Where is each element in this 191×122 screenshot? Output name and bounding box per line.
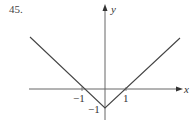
x-axis-label: x <box>183 83 189 95</box>
tick-label-y-neg1: −1 <box>88 103 100 115</box>
y-axis-label: y <box>110 3 116 15</box>
tick-label-x-pos1: 1 <box>123 92 129 104</box>
x-axis-arrow-icon <box>176 87 183 92</box>
graph: y x −1 1 −1 <box>0 0 191 122</box>
y-axis-arrow-icon <box>103 4 108 11</box>
tick-label-x-neg1: −1 <box>73 92 85 104</box>
